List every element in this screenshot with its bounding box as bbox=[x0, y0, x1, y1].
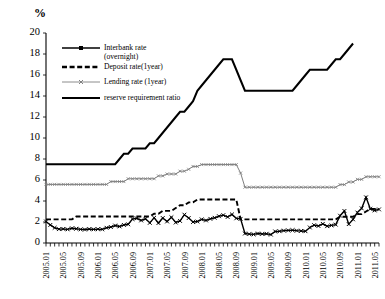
y-tick-label: 18 bbox=[30, 47, 41, 58]
x-tick-label: 2008.09 bbox=[232, 252, 241, 279]
x-tick-label: 2007.01 bbox=[146, 252, 155, 279]
series-2 bbox=[45, 163, 381, 189]
x-tick-label: 2010.09 bbox=[336, 252, 345, 279]
legend-label: Interbank rate bbox=[104, 43, 147, 52]
chart-legend: Interbank rate(overnight)Deposit rate(1y… bbox=[62, 43, 181, 102]
x-tick-label: 2011.05 bbox=[371, 252, 380, 278]
y-tick-label: 6 bbox=[35, 173, 40, 184]
legend-label: reserve requirement ratio bbox=[104, 93, 181, 102]
series-3 bbox=[46, 44, 353, 165]
y-tick-label: 12 bbox=[30, 110, 41, 121]
x-tick-label: 2009.05 bbox=[267, 252, 276, 279]
x-tick-label: 2011.01 bbox=[354, 252, 363, 278]
x-tick-label: 2006.05 bbox=[111, 252, 120, 279]
chart-container: % 02468101214161820 2005.012005.052005.0… bbox=[0, 0, 385, 299]
axes bbox=[46, 33, 379, 243]
series-1 bbox=[46, 200, 379, 220]
x-tick-label: 2010.05 bbox=[319, 252, 328, 279]
legend-item-3[interactable]: reserve requirement ratio bbox=[62, 93, 181, 102]
x-tick-label: 2010.01 bbox=[302, 252, 311, 279]
data-series bbox=[44, 44, 381, 237]
y-tick-label: 10 bbox=[30, 131, 41, 142]
x-tick-label: 2007.05 bbox=[163, 252, 172, 279]
y-axis-ticks: 02468101214161820 bbox=[30, 26, 47, 247]
y-tick-label: 20 bbox=[30, 26, 41, 37]
x-tick-label: 2008.01 bbox=[198, 252, 207, 279]
y-tick-label: 0 bbox=[35, 236, 40, 247]
y-tick-label: 16 bbox=[30, 68, 41, 79]
x-tick-label: 2008.05 bbox=[215, 252, 224, 279]
y-tick-label: 4 bbox=[35, 194, 41, 205]
x-tick-label: 2005.09 bbox=[77, 252, 86, 279]
legend-label: Deposit rate(1year) bbox=[104, 62, 163, 71]
legend-item-1[interactable]: Deposit rate(1year) bbox=[62, 62, 163, 71]
x-tick-label: 2006.01 bbox=[94, 252, 103, 279]
x-tick-label: 2009.09 bbox=[284, 252, 293, 279]
legend-item-0[interactable]: Interbank rate(overnight) bbox=[62, 43, 147, 61]
y-tick-label: 2 bbox=[35, 215, 40, 226]
x-tick-label: 2007.09 bbox=[181, 252, 190, 279]
legend-label-line2: (overnight) bbox=[104, 52, 139, 61]
legend-label: Lending rate (1year) bbox=[104, 77, 167, 86]
x-tick-label: 2006.09 bbox=[129, 252, 138, 279]
y-tick-label: 8 bbox=[35, 152, 40, 163]
x-tick-label: 2009.01 bbox=[250, 252, 259, 279]
x-axis-ticks: 2005.012005.052005.092006.012006.052006.… bbox=[42, 243, 380, 279]
y-tick-label: 14 bbox=[30, 89, 41, 100]
legend-item-2[interactable]: Lending rate (1year) bbox=[62, 77, 167, 86]
chart-plot: 02468101214161820 2005.012005.052005.092… bbox=[0, 0, 385, 299]
x-tick-label: 2005.05 bbox=[59, 252, 68, 279]
x-tick-label: 2005.01 bbox=[42, 252, 51, 279]
